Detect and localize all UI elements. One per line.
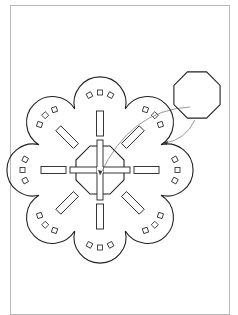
notch-tab bbox=[86, 241, 93, 248]
notch-tab bbox=[157, 212, 163, 218]
notch-tab bbox=[36, 121, 42, 127]
notch-tab bbox=[175, 168, 180, 173]
notch-tab bbox=[86, 92, 93, 99]
notch-tab bbox=[171, 156, 178, 163]
notch-tab bbox=[151, 221, 158, 228]
petal-slat bbox=[114, 104, 166, 156]
notch-tab bbox=[51, 227, 57, 233]
notch-tab bbox=[42, 221, 49, 228]
notch-tab bbox=[171, 177, 178, 184]
leader-line-petal bbox=[165, 120, 195, 143]
notch-tab bbox=[20, 168, 25, 173]
notch-tab bbox=[22, 156, 29, 163]
notch-tab bbox=[51, 106, 57, 112]
notch-tab bbox=[107, 92, 114, 99]
notch-tab bbox=[98, 90, 103, 95]
petal-slat bbox=[34, 104, 86, 156]
petal-slat bbox=[134, 156, 180, 184]
notch-tab bbox=[157, 121, 163, 127]
detached-octagon bbox=[174, 72, 220, 118]
notch-tab bbox=[36, 212, 42, 218]
notch-tab bbox=[98, 245, 103, 250]
notch-tab bbox=[142, 227, 148, 233]
petal-slat bbox=[34, 184, 86, 236]
petal-slat bbox=[86, 204, 114, 250]
notch-tab bbox=[107, 241, 114, 248]
petal-slat bbox=[20, 156, 66, 184]
petal-slat bbox=[86, 90, 114, 136]
notch-tab bbox=[22, 177, 29, 184]
petal-slat bbox=[114, 184, 166, 236]
notch-tab bbox=[142, 106, 148, 112]
notch-tab bbox=[42, 112, 49, 119]
